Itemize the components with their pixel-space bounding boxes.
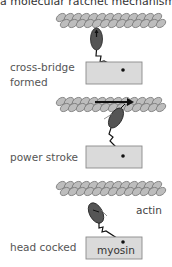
label-head-cocked: head cocked [10,241,76,254]
myosin-label: myosin [97,244,135,256]
actin-label: actin [136,204,162,216]
ratchet-diagram: myosin actin [0,0,172,267]
label-power-stroke: power stroke [10,151,78,164]
actin-filament-3 [55,180,167,198]
label-cross-bridge: cross-bridge [10,61,75,74]
myosin-box-2 [86,146,142,168]
label-formed: formed [10,76,48,89]
myosin-box-1 [86,62,142,84]
actin-filament-2 [55,96,167,114]
actin-filament-1 [55,12,167,30]
